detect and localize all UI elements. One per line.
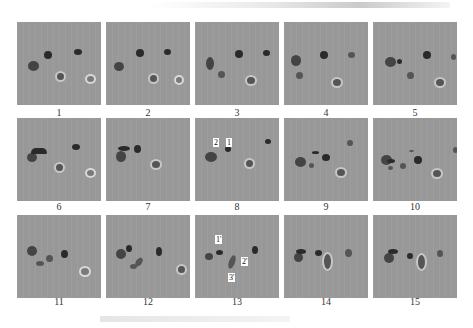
cell	[418, 255, 425, 269]
cell	[218, 71, 225, 78]
cell	[436, 79, 444, 86]
panel-7	[106, 118, 190, 201]
cell	[118, 146, 130, 151]
panel-label: 10	[373, 201, 457, 212]
annotation-1: 1	[226, 138, 232, 147]
cell	[388, 249, 398, 254]
cell	[72, 144, 80, 150]
cell	[27, 246, 37, 256]
panel-label: 8	[195, 201, 279, 212]
cell	[312, 151, 319, 154]
cell	[247, 77, 255, 84]
panel-1	[17, 22, 101, 105]
panel-label: 9	[284, 201, 368, 212]
cell	[164, 49, 171, 55]
cell	[263, 50, 270, 56]
cell	[130, 264, 137, 269]
panel-10	[373, 118, 457, 201]
panel-label: 7	[106, 201, 190, 212]
annotation-2: 2	[213, 138, 219, 147]
cell	[333, 79, 341, 86]
cell	[400, 163, 406, 169]
panel-5	[373, 22, 457, 105]
cell	[265, 139, 271, 144]
cell	[27, 153, 37, 162]
cell	[315, 250, 322, 256]
cell	[205, 152, 217, 162]
panel-label: 6	[17, 201, 101, 212]
cell	[453, 147, 457, 153]
cell	[345, 249, 352, 257]
cell	[227, 254, 237, 269]
panel-label: 4	[284, 107, 368, 118]
figure-caption	[100, 316, 290, 322]
cell	[384, 253, 394, 263]
cell	[116, 151, 126, 162]
faded-header-text	[150, 2, 450, 8]
panel-3	[195, 22, 279, 105]
cell	[387, 159, 395, 163]
cell	[388, 166, 393, 170]
panel-label: 14	[284, 296, 368, 307]
cell	[36, 261, 44, 266]
cell	[246, 160, 253, 167]
cell	[87, 170, 94, 176]
cell	[176, 77, 182, 83]
cell	[74, 49, 82, 55]
cell	[61, 250, 68, 258]
cell	[44, 51, 52, 59]
panel-label: 12	[106, 296, 190, 307]
cell	[320, 51, 328, 59]
cell	[57, 73, 64, 80]
cell	[134, 145, 141, 153]
cell	[205, 253, 213, 260]
cell	[136, 49, 144, 57]
panel-label: 11	[17, 296, 101, 307]
cell	[324, 254, 331, 269]
cell	[337, 169, 345, 176]
panel-4	[284, 22, 368, 105]
panel-label: 13	[195, 296, 279, 307]
cell	[28, 61, 39, 71]
cell	[294, 253, 303, 262]
cell	[126, 245, 132, 252]
annotation-2-prime: 2'	[241, 257, 248, 266]
cell	[385, 57, 396, 67]
panel-9	[284, 118, 368, 201]
panel-label: 15	[373, 296, 457, 307]
cell	[437, 250, 443, 257]
cell	[295, 157, 306, 167]
cell	[31, 148, 47, 154]
panel-label: 3	[195, 107, 279, 118]
panel-11	[17, 215, 101, 298]
cell	[150, 75, 157, 82]
cell	[156, 247, 162, 256]
cell	[178, 266, 185, 273]
panel-label: 1	[17, 107, 101, 118]
cell	[114, 62, 124, 71]
panel-13: 1' 2' 3'	[195, 215, 279, 298]
cell	[407, 72, 414, 79]
cell	[409, 150, 414, 152]
cell	[414, 156, 422, 164]
cell	[87, 76, 94, 82]
panel-label: 2	[106, 107, 190, 118]
cell	[206, 57, 214, 70]
cell	[296, 249, 306, 254]
panel-6	[17, 118, 101, 201]
annotation-1-prime: 1'	[215, 235, 222, 244]
panel-15	[373, 215, 457, 298]
cell	[433, 170, 441, 177]
cell	[56, 164, 63, 171]
cell	[46, 255, 53, 262]
cell	[235, 50, 243, 58]
cell	[309, 163, 314, 168]
panel-label: 5	[373, 107, 457, 118]
cell	[152, 161, 160, 168]
cell	[407, 253, 413, 259]
panel-12	[106, 215, 190, 298]
cell	[252, 246, 258, 254]
annotation-3-prime: 3'	[228, 273, 235, 282]
cell	[291, 55, 301, 66]
cell	[81, 268, 89, 275]
